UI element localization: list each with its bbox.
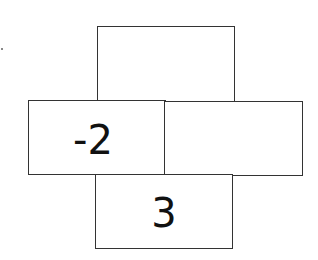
left-cell: -2	[28, 100, 166, 175]
top-cell	[97, 26, 235, 102]
bottom-cell: 3	[95, 174, 233, 249]
right-cell	[164, 101, 303, 176]
scan-artifact-dot	[1, 48, 3, 50]
bottom-cell-value: 3	[151, 193, 176, 233]
left-cell-value: -2	[73, 120, 113, 160]
